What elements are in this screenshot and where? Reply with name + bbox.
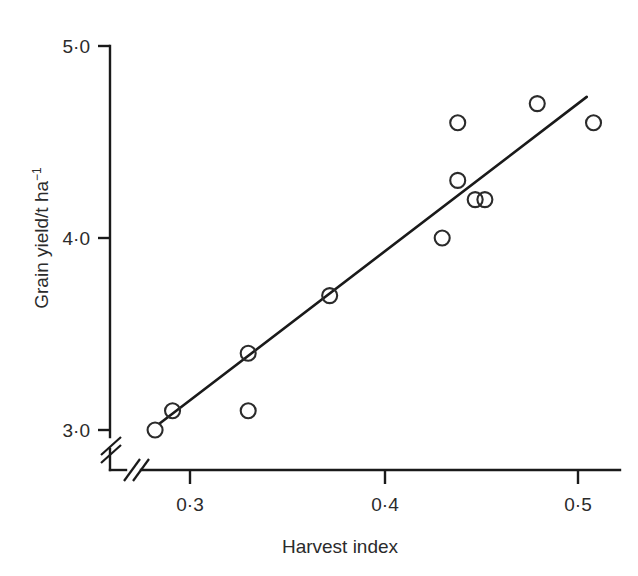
y-axis-title-exponent: −1 xyxy=(30,167,44,181)
data-point-group xyxy=(148,96,601,437)
y-tick-label-5-0: 5·0 xyxy=(63,36,90,57)
x-tick-label-0-5: 0·5 xyxy=(564,494,591,515)
data-point xyxy=(530,96,545,111)
data-point xyxy=(322,288,337,303)
data-point xyxy=(241,403,256,418)
y-axis-title-main: Grain yield/t ha xyxy=(31,181,52,309)
y-tick-label-3-0: 3·0 xyxy=(63,420,90,441)
y-axis-title: Grain yield/t ha−1 xyxy=(30,167,52,309)
data-point xyxy=(435,231,450,246)
x-tick-label-0-3: 0·3 xyxy=(176,494,203,515)
trend-line xyxy=(160,97,587,423)
x-tick-labels: 0·3 0·4 0·5 xyxy=(176,494,591,515)
data-point xyxy=(165,403,180,418)
data-point xyxy=(477,192,492,207)
regression-line xyxy=(160,97,587,423)
scatter-plot-figure: 5·0 4·0 3·0 0·3 0·4 0·5 Harvest index Gr… xyxy=(0,0,638,576)
y-axis-ticks xyxy=(98,46,110,430)
x-tick-label-0-4: 0·4 xyxy=(371,494,399,515)
chart-canvas: 5·0 4·0 3·0 0·3 0·4 0·5 Harvest index Gr… xyxy=(0,0,638,576)
data-point xyxy=(586,115,601,130)
data-point xyxy=(450,115,465,130)
x-axis-title: Harvest index xyxy=(282,536,399,557)
y-tick-labels: 5·0 4·0 3·0 xyxy=(63,36,90,441)
svg-text:Grain yield/t ha−1: Grain yield/t ha−1 xyxy=(30,167,52,309)
data-point xyxy=(241,346,256,361)
data-point xyxy=(450,173,465,188)
x-axis-ticks xyxy=(190,470,578,484)
y-tick-label-4-0: 4·0 xyxy=(63,228,90,249)
data-point xyxy=(148,423,163,438)
